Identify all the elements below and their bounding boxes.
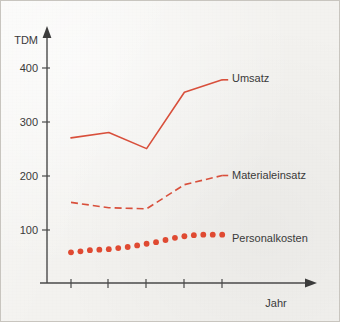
y-tick-label-200: 200 [20,170,38,182]
line-chart: 400 300 200 100 TDM Jahr Umsatz Material… [0,0,340,322]
data-point-marker [163,237,169,243]
y-tick-marks [42,68,50,230]
data-point-marker [134,242,140,248]
data-point-marker [78,248,84,254]
data-point-marker [210,232,216,238]
data-point-marker [106,246,112,252]
data-point-marker [115,245,121,251]
y-tick-label-100: 100 [20,224,38,236]
series-personalkosten [68,232,225,256]
series-materialeinsatz [71,176,222,209]
chart-container: 400 300 200 100 TDM Jahr Umsatz Material… [0,0,340,322]
data-point-marker [182,233,188,239]
y-axis [43,26,52,283]
data-point-marker [172,235,178,241]
data-point-marker [96,247,102,253]
y-tick-label-400: 400 [20,62,38,74]
data-point-marker [191,232,197,238]
data-point-marker [68,249,74,255]
x-axis-title: Jahr [265,297,287,309]
series-layer [68,80,228,255]
arrow-right-icon [305,279,317,288]
data-point-marker [144,241,150,247]
series-label-umsatz: Umsatz [232,72,269,84]
x-axis [40,279,317,288]
arrow-up-icon [43,26,52,38]
data-point-marker [153,239,159,245]
y-tick-label-300: 300 [20,116,38,128]
data-point-marker [200,232,206,238]
y-tick-labels: 400 300 200 100 [20,62,38,236]
data-point-marker [87,247,93,253]
data-point-marker [219,232,225,238]
series-umsatz [71,80,222,149]
series-label-personalkosten: Personalkosten [232,232,308,244]
data-point-marker [125,244,131,250]
series-label-materialeinsatz: Materialeinsatz [232,169,306,181]
y-axis-title: TDM [14,34,38,46]
